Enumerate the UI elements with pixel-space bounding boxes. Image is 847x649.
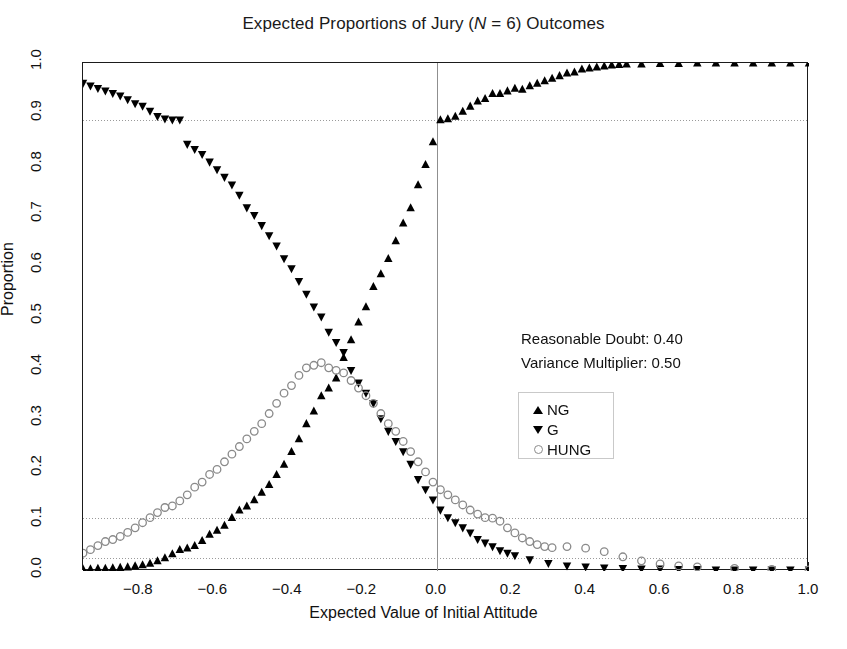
y-tick-label: 0.4 bbox=[0, 356, 70, 373]
x-tick-label: 0.6 bbox=[629, 580, 689, 597]
data-points-canvas bbox=[83, 63, 809, 571]
y-tick-label: 0.6 bbox=[0, 254, 70, 271]
chart-legend: NG G HUNG bbox=[518, 392, 614, 459]
x-tick-label: −0.2 bbox=[331, 580, 391, 597]
x-tick-label: −0.4 bbox=[257, 580, 317, 597]
y-tick-label: 0.2 bbox=[0, 457, 70, 474]
annotation-variance-multiplier: Variance Multiplier: 0.50 bbox=[521, 354, 681, 371]
y-tick-label: 0.0 bbox=[0, 559, 70, 576]
x-tick-label: 1.0 bbox=[778, 580, 838, 597]
x-tick-label: 0.4 bbox=[555, 580, 615, 597]
chart-figure: Expected Proportions of Jury (N = 6) Out… bbox=[0, 0, 847, 649]
chart-title-post: = 6) Outcomes bbox=[486, 14, 604, 33]
triangle-up-icon bbox=[529, 403, 547, 416]
legend-item-hung[interactable]: HUNG bbox=[529, 439, 613, 459]
x-tick-label: 0.8 bbox=[704, 580, 764, 597]
plot-area bbox=[82, 62, 808, 570]
y-axis-label: Proportion bbox=[0, 0, 17, 579]
triangle-down-icon bbox=[529, 423, 547, 436]
legend-label-g: G bbox=[547, 422, 559, 437]
legend-label-ng: NG bbox=[547, 402, 570, 417]
x-axis-label: Expected Value of Initial Attitude bbox=[0, 604, 847, 622]
y-tick-label: 0.8 bbox=[0, 153, 70, 170]
y-tick-label: 0.3 bbox=[0, 407, 70, 424]
y-tick-label: 0.7 bbox=[0, 203, 70, 220]
x-tick-label: −0.6 bbox=[182, 580, 242, 597]
y-tick-label: 0.9 bbox=[0, 102, 70, 119]
annotation-reasonable-doubt: Reasonable Doubt: 0.40 bbox=[521, 330, 683, 347]
x-tick-label: 0.0 bbox=[406, 580, 466, 597]
chart-title-italic-n: N bbox=[474, 14, 486, 33]
legend-item-ng[interactable]: NG bbox=[529, 399, 613, 419]
legend-label-hung: HUNG bbox=[547, 442, 591, 457]
x-tick-label: 0.2 bbox=[480, 580, 540, 597]
chart-title: Expected Proportions of Jury (N = 6) Out… bbox=[0, 14, 847, 34]
x-tick-label: −0.8 bbox=[108, 580, 168, 597]
circle-open-icon bbox=[529, 443, 547, 456]
legend-item-g[interactable]: G bbox=[529, 419, 613, 439]
y-tick-label: 0.5 bbox=[0, 305, 70, 322]
y-tick-label: 1.0 bbox=[0, 51, 70, 68]
chart-title-pre: Expected Proportions of Jury ( bbox=[242, 14, 474, 33]
y-tick-label: 0.1 bbox=[0, 508, 70, 525]
